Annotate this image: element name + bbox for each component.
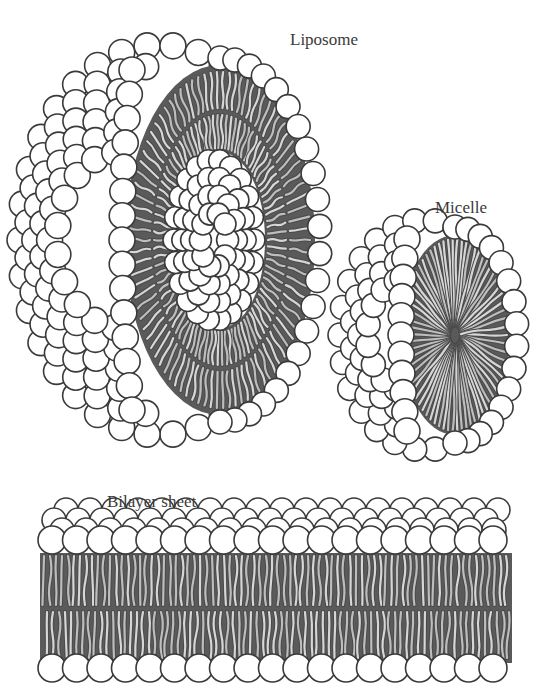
liposome-label: Liposome bbox=[290, 30, 358, 50]
diagram-canvas bbox=[0, 0, 548, 691]
micelle-label: Micelle bbox=[435, 198, 487, 218]
liposome-illustration bbox=[7, 33, 332, 447]
bilayer-sheet-label: Bilayer sheet bbox=[107, 492, 196, 512]
micelle-illustration bbox=[328, 209, 529, 461]
bilayer-sheet-illustration bbox=[38, 498, 512, 682]
